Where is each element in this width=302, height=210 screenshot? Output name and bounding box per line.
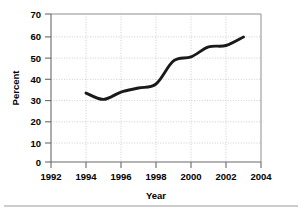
y-tick-label: 0	[36, 157, 41, 168]
y-tick-label: 50	[30, 53, 41, 64]
y-tick-label: 10	[30, 138, 41, 149]
x-tick-label: 1998	[145, 171, 166, 182]
x-tick-label: 1994	[75, 171, 97, 182]
y-tick-label: 30	[30, 95, 41, 106]
x-tick-label: 1992	[40, 171, 61, 182]
x-tick-label: 2002	[215, 171, 236, 182]
x-tick-label: 2000	[180, 171, 201, 182]
y-axis-title: Percent	[10, 70, 21, 106]
x-tick-label: 1996	[110, 171, 131, 182]
y-tick-label: 70	[30, 9, 41, 20]
line-chart: 70 60 50 40 30 20 10 0 1992 1994 1996 19…	[0, 0, 302, 210]
y-tick-label: 40	[30, 74, 41, 85]
chart-figure: 70 60 50 40 30 20 10 0 1992 1994 1996 19…	[0, 0, 302, 210]
x-tick-label: 2004	[250, 171, 272, 182]
x-axis-title: Year	[146, 190, 166, 201]
y-tick-label: 20	[30, 116, 41, 127]
y-tick-label: 60	[30, 31, 41, 42]
